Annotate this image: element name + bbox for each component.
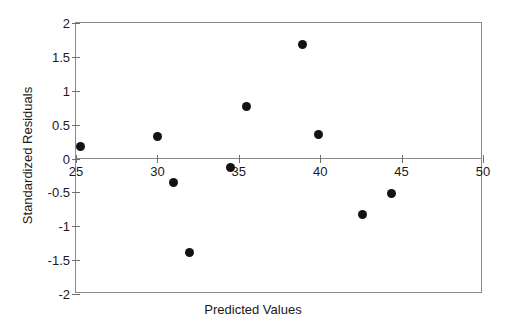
- y-axis-title: Standardized Residuals: [20, 41, 35, 271]
- residual-scatter-chart: 21.510.50-0.5-1-1.5-2 253035404550 Stand…: [0, 0, 506, 327]
- data-point: [358, 210, 367, 219]
- y-tick-mark: [72, 125, 80, 126]
- y-tick-mark: [72, 192, 80, 193]
- y-tick-mark: [72, 23, 80, 24]
- data-point: [169, 178, 178, 187]
- y-tick-label: 1: [63, 84, 70, 97]
- y-tick-label: -2: [58, 288, 70, 301]
- x-tick-label: 40: [313, 165, 327, 178]
- x-tick-label: 30: [150, 165, 164, 178]
- y-tick-label: 0.5: [52, 118, 70, 131]
- y-tick-mark: [72, 57, 80, 58]
- data-point: [242, 102, 251, 111]
- y-tick-mark: [72, 91, 80, 92]
- plot-area: 21.510.50-0.5-1-1.5-2 253035404550: [75, 22, 482, 293]
- x-tick-label: 45: [394, 165, 408, 178]
- data-point: [298, 40, 307, 49]
- y-tick-mark: [72, 260, 80, 261]
- data-point: [387, 189, 396, 198]
- y-tick-mark: [72, 294, 80, 295]
- x-tick-mark: [320, 155, 321, 163]
- x-tick-mark: [76, 155, 77, 163]
- y-tick-mark: [72, 226, 80, 227]
- y-tick-label: -0.5: [48, 186, 70, 199]
- y-tick-label: 2: [63, 17, 70, 30]
- data-point: [185, 248, 194, 257]
- y-tick-label: -1.5: [48, 254, 70, 267]
- data-point: [226, 163, 235, 172]
- data-point: [76, 142, 85, 151]
- x-tick-mark: [483, 155, 484, 163]
- y-tick-label: -1: [58, 220, 70, 233]
- x-tick-mark: [157, 155, 158, 163]
- zero-reference-line: [76, 158, 481, 159]
- data-point: [153, 132, 162, 141]
- x-tick-label: 25: [69, 165, 83, 178]
- x-tick-label: 50: [476, 165, 490, 178]
- data-point: [314, 130, 323, 139]
- x-axis-title: Predicted Values: [0, 302, 506, 317]
- x-tick-mark: [239, 155, 240, 163]
- y-tick-label: 1.5: [52, 50, 70, 63]
- x-tick-mark: [402, 155, 403, 163]
